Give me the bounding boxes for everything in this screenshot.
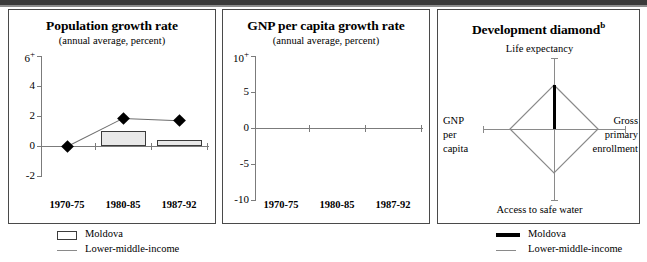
diamond-label-gross-primary-enrollment: Gross primary enrollment [564, 114, 638, 156]
y-tick-2 [37, 116, 42, 117]
x-axis-zero-line [255, 128, 423, 129]
chart-population-growth-rate: 6+ 4 2 0 -2 1970-75 1980-85 1987-92 [9, 10, 215, 223]
y-tick-label-0: 0 [11, 139, 35, 151]
bar-moldova-1987-92 [157, 140, 202, 146]
y-tick-label-4: 4 [11, 79, 35, 91]
diamond-moldova-life-expectancy [553, 85, 556, 129]
y-tick-6 [37, 56, 42, 57]
x-tick-1 [95, 143, 96, 150]
x-tick-2 [365, 125, 366, 132]
legend-label-moldova: Moldova [85, 228, 123, 239]
y-tick-minus2 [37, 176, 42, 177]
y-tick-label-minus2: -2 [11, 169, 35, 181]
y-tick-label-10: 10+ [223, 49, 249, 64]
legend-swatch-line-icon [496, 250, 516, 251]
x-tick-label-1970-75: 1970-75 [37, 199, 97, 210]
y-tick-label-minus10: -10 [223, 193, 249, 205]
x-tick-2 [151, 143, 152, 150]
diamond-label-gnp-per-capita: GNP per capita [443, 114, 483, 156]
diamond-label-enroll-line-1: Gross [564, 114, 638, 128]
legend-swatch-bar-icon [57, 231, 77, 240]
y-tick-label-2: 2 [11, 109, 35, 121]
legend-label-moldova: Moldova [528, 228, 566, 239]
diamond-label-enroll-line-2: primary [564, 128, 638, 142]
x-tick-3 [207, 143, 208, 150]
panel-gnp-per-capita-growth-rate: GNP per capita growth rate (annual avera… [222, 9, 430, 224]
y-tick-label-5: 5 [223, 85, 249, 97]
y-tick-10 [251, 56, 256, 57]
y-tick-5 [251, 92, 256, 93]
line-segment-2 [123, 118, 179, 121]
bar-moldova-1980-85 [101, 131, 146, 146]
data-marker-1970-75 [61, 140, 74, 153]
chart-gnp-per-capita-growth-rate: 10+ 5 0 -5 -10 1970-75 1980-85 1987-92 [223, 10, 429, 223]
page-edge-artifact-shadow [0, 5, 647, 7]
diamond-label-life-expectancy: Life expectancy [438, 43, 641, 54]
development-diamond-figure: Population growth rate (annual average, … [0, 0, 647, 262]
y-tick-label-0: 0 [223, 121, 249, 133]
diamond-label-enroll-line-3: enrollment [564, 142, 638, 156]
panel-development-diamond: Development diamondb Life expectancy Acc… [437, 9, 640, 224]
data-marker-1987-92 [173, 114, 186, 127]
diamond-label-access-to-safe-water: Access to safe water [438, 204, 641, 215]
x-tick-label-1980-85: 1980-85 [93, 199, 153, 210]
x-tick-3 [421, 125, 422, 132]
data-marker-1980-85 [117, 112, 130, 125]
legend-swatch-line-icon [57, 250, 77, 251]
legend-label-lower-middle-income: Lower-middle-income [528, 243, 622, 254]
x-tick-1 [309, 125, 310, 132]
legend-swatch-thick-line-icon [496, 233, 520, 237]
y-tick-label-minus5: -5 [223, 157, 249, 169]
y-tick-minus5 [251, 164, 256, 165]
x-tick-label-1987-92: 1987-92 [149, 199, 209, 210]
legend-label-lower-middle-income: Lower-middle-income [85, 243, 179, 254]
y-tick-label-6: 6+ [11, 49, 35, 64]
diamond-label-gnp-line-1: GNP [443, 114, 483, 128]
y-tick-4 [37, 86, 42, 87]
panel-population-growth-rate: Population growth rate (annual average, … [8, 9, 216, 224]
x-tick-label-1970-75: 1970-75 [251, 199, 311, 210]
diamond-label-gnp-line-2: per [443, 128, 483, 142]
chart-development-diamond: Life expectancy Access to safe water GNP… [438, 10, 639, 223]
diamond-label-gnp-line-3: capita [443, 142, 483, 156]
x-tick-label-1980-85: 1980-85 [307, 199, 367, 210]
x-tick-label-1987-92: 1987-92 [363, 199, 423, 210]
